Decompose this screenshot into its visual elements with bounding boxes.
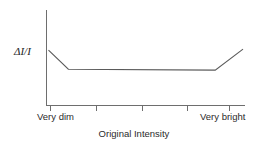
x-tick-label-very-dim: Very dim	[37, 111, 74, 122]
chart-figure: ΔI/I Very dim Very bright Original Inten…	[0, 0, 268, 145]
y-axis-label: ΔI/I	[13, 45, 32, 57]
x-axis-title: Original Intensity	[99, 128, 170, 139]
weber-fraction-plot: ΔI/I Very dim Very bright Original Inten…	[0, 0, 268, 145]
x-tick-label-very-bright: Very bright	[200, 111, 246, 122]
plot-background	[0, 0, 268, 145]
